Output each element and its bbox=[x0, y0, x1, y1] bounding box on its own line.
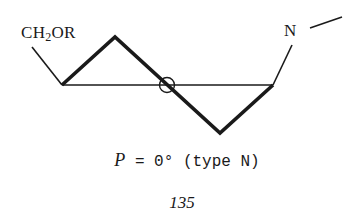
conformation-caption: P = 0° (type N) bbox=[0, 150, 362, 171]
pseudorotation-variable: P bbox=[114, 150, 125, 170]
ch2or-label: CH2OR bbox=[21, 23, 76, 45]
nitrogen-label: N bbox=[284, 21, 296, 41]
n-methyl-bond bbox=[310, 17, 342, 28]
ch2or-bond bbox=[32, 47, 62, 85]
compound-number: 135 bbox=[0, 193, 362, 213]
n-bond bbox=[273, 45, 292, 85]
caption-value: = 0° (type N) bbox=[125, 153, 259, 171]
conformation-diagram: CH2OR N P = 0° (type N) 135 bbox=[0, 0, 362, 215]
